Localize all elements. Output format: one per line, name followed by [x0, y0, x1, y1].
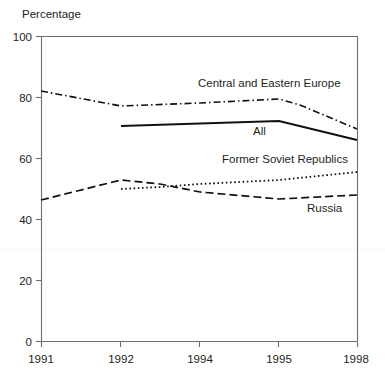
- y-tick-label-80: 80: [19, 92, 32, 104]
- series-line-russia: [41, 180, 357, 200]
- x-tick-label-1992: 1992: [108, 353, 134, 365]
- series-line-all: [121, 121, 357, 140]
- y-tick-label-60: 60: [19, 153, 32, 165]
- x-tick-label-1994: 1994: [187, 353, 213, 365]
- y-tick-label-0: 0: [26, 336, 32, 348]
- x-tick-label-1998: 1998: [343, 353, 369, 365]
- series-label-former-soviet-republics: Former Soviet Republics: [222, 153, 348, 165]
- series-label-all: All: [253, 125, 266, 137]
- y-tick-label-20: 20: [19, 275, 32, 287]
- plot-area: 100 80 60 40 20 0 1991 1992 1994 1995 19…: [0, 0, 385, 379]
- y-tick-label-100: 100: [13, 31, 32, 43]
- series-label-central-eastern-europe: Central and Eastern Europe: [198, 77, 341, 89]
- series-line-former-soviet-republics: [121, 172, 357, 189]
- line-chart: Percentage 100 80 60 40 20 0 1991 1992 1…: [0, 0, 385, 379]
- x-tick-label-1991: 1991: [28, 353, 54, 365]
- y-tick-label-40: 40: [19, 214, 32, 226]
- series-label-russia: Russia: [307, 202, 343, 214]
- x-tick-label-1995: 1995: [266, 353, 292, 365]
